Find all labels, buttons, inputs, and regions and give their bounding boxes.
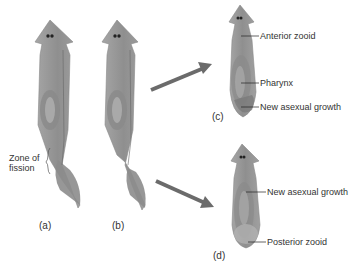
eyespot-icon	[46, 34, 49, 37]
panel-label-a: (a)	[39, 220, 51, 231]
panel-label-b: (b)	[112, 220, 124, 231]
arrow-to-d-icon	[156, 181, 214, 208]
eyespot-icon	[240, 156, 243, 159]
anterior-zooid-label: Anterior zooid	[260, 31, 316, 41]
posterior-zooid-label: Posterior zooid	[267, 237, 327, 247]
panel-label-d: (d)	[213, 250, 225, 261]
eyespot-icon	[237, 17, 240, 20]
panel-label-c: (c)	[212, 111, 224, 122]
eyespot-icon	[243, 156, 246, 159]
pharynx-label: Pharynx	[260, 78, 293, 88]
eyespot-icon	[240, 17, 243, 20]
planarian-a	[35, 20, 80, 208]
zone-of-fission-label-1: Zone of	[9, 153, 40, 163]
new-growth-d-label: New asexual growth	[267, 187, 348, 197]
planarian-b	[102, 20, 146, 210]
planarian-c	[229, 5, 256, 117]
zone-of-fission-label-2: fission	[9, 163, 35, 173]
eyespot-icon	[50, 34, 53, 37]
arrow-to-c-icon	[151, 62, 212, 90]
planarian-d	[231, 144, 260, 248]
new-growth-c-label: New asexual growth	[260, 102, 341, 112]
eyespot-icon	[113, 34, 116, 37]
eyespot-icon	[117, 34, 120, 37]
